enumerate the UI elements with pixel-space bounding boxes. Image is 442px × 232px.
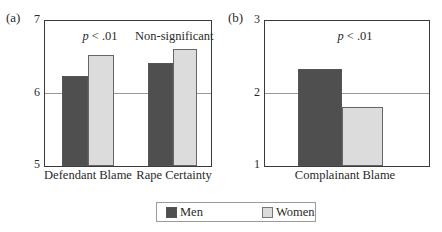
y-tick-6: 6 xyxy=(26,85,40,100)
bar-complainant-women xyxy=(342,107,383,166)
bar-complainant-men xyxy=(298,69,342,166)
annotation-p-b: p < .01 xyxy=(325,29,385,44)
x-label-complainant-blame: Complainant Blame xyxy=(290,168,400,183)
annotation-p-a: p < .01 xyxy=(67,29,133,44)
panel-a-label: (a) xyxy=(6,10,20,26)
panel-a-plot: p < .01 Non-significant xyxy=(44,20,212,167)
y-tick-3: 3 xyxy=(246,12,260,27)
legend-item-women: Women xyxy=(262,205,315,220)
gridline-2 xyxy=(265,93,429,94)
legend: Men Women xyxy=(156,202,316,222)
y-tick-7: 7 xyxy=(26,12,40,27)
legend-item-men: Men xyxy=(166,205,203,220)
panel-b-plot: p < .01 xyxy=(264,20,430,167)
x-label-defendant-blame: Defendant Blame xyxy=(40,168,136,183)
bar-rape-women xyxy=(173,49,197,166)
y-tick-2: 2 xyxy=(246,85,260,100)
annotation-non-significant: Non-significant xyxy=(135,29,211,44)
bar-rape-men xyxy=(148,63,173,166)
y-tick-5: 5 xyxy=(26,157,40,172)
x-label-rape-certainty: Rape Certainty xyxy=(133,168,215,183)
legend-label-men: Men xyxy=(180,205,203,220)
bar-defendant-women xyxy=(88,55,114,166)
bar-defendant-men xyxy=(62,76,88,166)
y-tick-1: 1 xyxy=(246,157,260,172)
legend-swatch-men xyxy=(166,207,177,218)
legend-label-women: Women xyxy=(276,205,315,220)
legend-swatch-women xyxy=(262,207,273,218)
panel-b-label: (b) xyxy=(228,10,243,26)
